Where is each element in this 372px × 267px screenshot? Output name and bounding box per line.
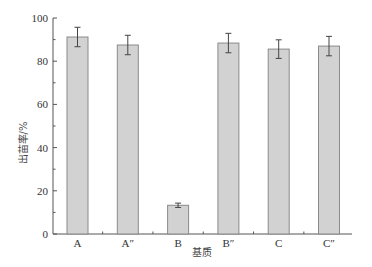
x-tick-label: B″ [222,237,234,249]
bar-0 [67,37,88,234]
y-tick-label: 80 [37,55,49,67]
y-tick-label: 60 [37,98,49,110]
bar-3 [218,43,239,234]
x-tick-label: A″ [122,237,135,249]
y-axis: 020406080100 [32,12,58,240]
x-axis-title: 基质 [192,246,212,258]
y-tick-label: 100 [32,12,49,24]
bar-2 [168,205,189,234]
error-bars-group [75,27,333,207]
bar-4 [268,49,289,234]
bar-1 [117,45,138,234]
y-axis-title: 出苗率/% [17,122,29,165]
y-tick-label: 0 [43,228,49,240]
x-tick-label: A [74,237,82,249]
x-tick-label: C [275,237,282,249]
y-tick-label: 20 [37,185,49,197]
x-tick-label: B [174,237,181,249]
x-tick-label: C″ [323,237,335,249]
bar-5 [319,46,340,234]
bar-chart: 020406080100 AA″BB″CC″ 基质 出苗率/% [0,0,372,267]
y-tick-label: 40 [37,142,49,154]
bars-group [67,37,340,234]
